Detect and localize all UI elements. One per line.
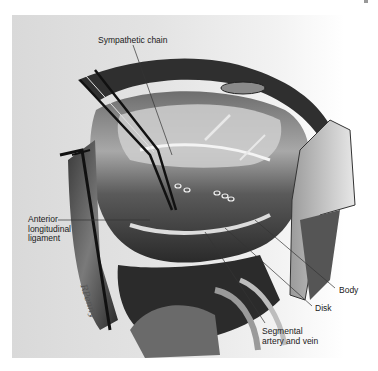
label-disk: Disk — [315, 304, 332, 314]
label-body: Body — [339, 286, 358, 296]
label-segmental-artery-and-vein: Segmental artery and vein — [262, 327, 318, 346]
vertebral-surface — [118, 104, 282, 167]
rib-section — [221, 82, 265, 94]
anatomy-drawing — [0, 0, 378, 371]
label-sympathetic-chain: Sympathetic chain — [98, 36, 167, 46]
surgical-illustration: Sympathetic chain Anterior longitudinal … — [0, 0, 378, 371]
label-anterior-longitudinal-ligament: Anterior longitudinal ligament — [28, 215, 71, 244]
label-line: ligament — [28, 234, 71, 244]
label-line: artery and vein — [262, 337, 318, 347]
